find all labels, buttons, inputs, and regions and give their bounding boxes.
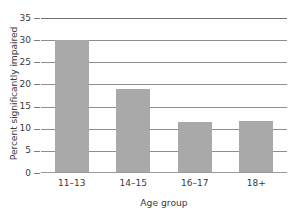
y-tick-label-30: 30	[5, 36, 31, 45]
y-tick-label-10: 10	[5, 124, 31, 133]
y-tick-label-20: 20	[5, 80, 31, 89]
y-tick-label-0: 0	[5, 169, 31, 178]
x-tick-label: 14–15	[103, 178, 165, 188]
x-axis-baseline	[41, 172, 287, 173]
plot-area	[41, 18, 287, 173]
y-tick-label-25: 25	[5, 58, 31, 67]
bar	[55, 40, 89, 173]
x-tick-label: 18+	[226, 178, 288, 188]
y-tick-mark-0	[34, 173, 40, 174]
y-tick-mark-20	[34, 84, 40, 85]
y-tick-mark-35	[34, 18, 40, 19]
x-tick-label: 16–17	[164, 178, 226, 188]
bar	[239, 121, 273, 173]
x-axis-title: Age group	[41, 197, 287, 208]
y-tick-label-35: 35	[5, 14, 31, 23]
y-tick-mark-5	[34, 151, 40, 152]
y-tick-mark-10	[34, 129, 40, 130]
bar	[178, 122, 212, 173]
y-tick-mark-15	[34, 107, 40, 108]
bar	[116, 89, 150, 173]
y-tick-label-5: 5	[5, 146, 31, 155]
y-tick-label-15: 15	[5, 102, 31, 111]
y-tick-mark-30	[34, 40, 40, 41]
gridline-35	[41, 18, 287, 19]
bar-chart: Percent significantly impaired 051015202…	[0, 0, 294, 220]
y-tick-mark-25	[34, 62, 40, 63]
x-tick-label: 11–13	[41, 178, 103, 188]
